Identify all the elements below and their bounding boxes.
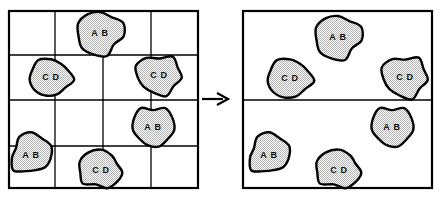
transformation-diagram: A BC DC DA BA BC D A BC DC DA BA BC D <box>0 0 441 200</box>
diagram-canvas: A BC DC DA BA BC D A BC DC DA BA BC D <box>0 0 441 200</box>
before-panel: A BC DC DA BA BC D <box>9 11 198 188</box>
after-panel: A BC DC DA BA BC D <box>243 11 432 188</box>
